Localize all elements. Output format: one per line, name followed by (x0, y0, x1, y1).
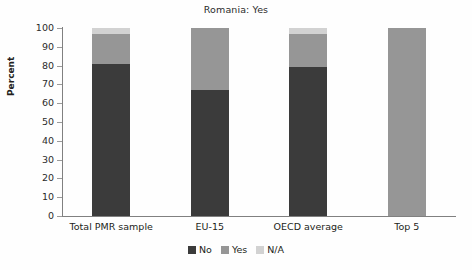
chart-legend: NoYesN/A (0, 245, 472, 255)
bar-stack[interactable] (388, 28, 426, 216)
legend-swatch-icon (256, 246, 264, 254)
legend-swatch-icon (221, 246, 229, 254)
bar-segment-no[interactable] (289, 67, 327, 216)
y-tick-label: 30 (0, 155, 54, 165)
bar-stack[interactable] (92, 28, 130, 216)
x-axis-label-3: OECD average (259, 221, 358, 232)
bar-segment-yes[interactable] (388, 28, 426, 216)
y-tick-label: 10 (0, 192, 54, 202)
bar-stack[interactable] (191, 28, 229, 216)
legend-label: Yes (232, 245, 247, 255)
bar-segment-yes[interactable] (191, 28, 229, 90)
x-axis-line (62, 216, 456, 217)
chart-container: Romania: Yes Percent 1009080706050403020… (0, 0, 472, 270)
legend-label: No (199, 245, 212, 255)
bar-segment-yes[interactable] (92, 34, 130, 64)
bar-segment-yes[interactable] (289, 34, 327, 68)
y-tick-label: 50 (0, 117, 54, 127)
y-tick-label: 80 (0, 61, 54, 71)
bar-stack[interactable] (289, 28, 327, 216)
x-axis-label-4: Top 5 (358, 221, 457, 232)
y-tick-label: 100 (0, 23, 54, 33)
bar-segment-no[interactable] (92, 64, 130, 216)
y-tick-label: 40 (0, 136, 54, 146)
y-tick-label: 70 (0, 79, 54, 89)
legend-label: N/A (267, 245, 284, 255)
legend-item-yes[interactable]: Yes (221, 245, 247, 255)
y-tick-label: 90 (0, 42, 54, 52)
legend-item-n-a[interactable]: N/A (256, 245, 284, 255)
y-tick-label: 0 (0, 211, 54, 221)
legend-item-no[interactable]: No (188, 245, 212, 255)
bar-segment-no[interactable] (191, 90, 229, 216)
y-tick-label: 20 (0, 173, 54, 183)
y-tick-label: 60 (0, 98, 54, 108)
x-axis-label-2: EU-15 (161, 221, 260, 232)
x-axis-label-1: Total PMR sample (62, 221, 161, 232)
legend-swatch-icon (188, 246, 196, 254)
plot-area (62, 28, 456, 216)
chart-title: Romania: Yes (0, 4, 472, 15)
y-tick-mark (57, 216, 62, 217)
